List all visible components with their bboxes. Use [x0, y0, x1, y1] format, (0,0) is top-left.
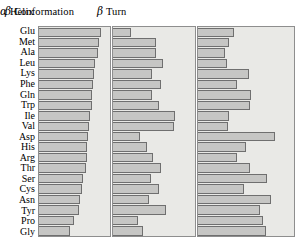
bar-row [39, 194, 110, 204]
bar-row [198, 215, 294, 225]
bar-alpha-helix-arg [38, 153, 87, 162]
bar-alpha-helix-his [38, 142, 87, 151]
bar-beta-conformation-trp [112, 101, 159, 110]
bar-row [113, 215, 195, 225]
bar-series-beta-turn [198, 27, 294, 236]
bar-row [198, 79, 294, 89]
bar-beta-turn-ser [197, 174, 267, 183]
bar-row [198, 37, 294, 47]
bar-row [113, 121, 195, 131]
bar-alpha-helix-cys [38, 184, 82, 193]
bar-beta-turn-lys [197, 69, 249, 78]
bar-beta-conformation-arg [112, 153, 153, 162]
bar-alpha-helix-ser [38, 174, 83, 183]
bar-beta-turn-ala [197, 48, 225, 57]
bar-beta-turn-val [197, 122, 228, 131]
bar-row [113, 79, 195, 89]
bar-beta-turn-leu [197, 59, 227, 68]
bar-row [39, 37, 110, 47]
bar-row [198, 69, 294, 79]
bar-alpha-helix-lys [38, 69, 94, 78]
plot-panel-alpha-helix [38, 26, 111, 237]
bar-beta-conformation-ala [112, 48, 156, 57]
bar-alpha-helix-ile [38, 111, 90, 120]
bar-row [113, 194, 195, 204]
bar-alpha-helix-leu [38, 59, 95, 68]
bar-beta-conformation-glu [112, 28, 131, 37]
bar-row [113, 90, 195, 100]
bar-row [113, 163, 195, 173]
bar-row [113, 48, 195, 58]
bar-row [113, 37, 195, 47]
bar-beta-conformation-gly [112, 226, 143, 235]
bar-beta-conformation-pro [112, 216, 138, 225]
bar-row [39, 163, 110, 173]
bar-beta-conformation-cys [112, 184, 159, 193]
bar-row [113, 205, 195, 215]
bar-row [39, 69, 110, 79]
bar-row [113, 184, 195, 194]
bar-alpha-helix-glu [38, 28, 101, 37]
panel-title-beta-turn: β Turn [0, 5, 299, 17]
bar-beta-conformation-lys [112, 69, 152, 78]
bar-row [198, 111, 294, 121]
bar-row [198, 226, 294, 236]
bar-beta-conformation-his [112, 142, 147, 151]
bar-row [113, 100, 195, 110]
bar-alpha-helix-val [38, 122, 89, 131]
bar-row [198, 27, 294, 37]
bar-beta-conformation-gln [112, 90, 152, 99]
bar-alpha-helix-pro [38, 216, 74, 225]
bar-row [198, 173, 294, 183]
bar-beta-turn-arg [197, 153, 237, 162]
bar-row [39, 184, 110, 194]
bar-row [198, 48, 294, 58]
bar-row [39, 27, 110, 37]
bar-row [113, 111, 195, 121]
bar-row [39, 111, 110, 121]
panel-titles: α Helix β Conformation β Turn [0, 0, 299, 26]
bar-row [39, 173, 110, 183]
category-axis-labels: GluMetAlaLeuLysPheGlnTrpIleValAspHisArgT… [0, 26, 38, 237]
bar-row [198, 90, 294, 100]
bar-row [39, 152, 110, 162]
category-label: Gly [0, 226, 38, 237]
bar-row [39, 132, 110, 142]
bar-alpha-helix-tyr [38, 205, 79, 214]
category-label: Val [0, 121, 38, 132]
bar-alpha-helix-trp [38, 101, 92, 110]
bar-beta-turn-thr [197, 163, 250, 172]
bar-alpha-helix-asp [38, 132, 88, 141]
bar-row [39, 215, 110, 225]
bar-row [39, 100, 110, 110]
bar-alpha-helix-gly [38, 226, 70, 235]
bar-beta-conformation-ile [112, 111, 175, 120]
bar-beta-turn-pro [197, 216, 263, 225]
bar-row [113, 27, 195, 37]
bar-beta-turn-asp [197, 132, 275, 141]
bar-row [198, 205, 294, 215]
bar-row [113, 226, 195, 236]
bar-row [198, 132, 294, 142]
bar-beta-conformation-leu [112, 59, 163, 68]
category-label: His [0, 142, 38, 153]
bar-row [113, 152, 195, 162]
bar-beta-conformation-met [112, 38, 156, 47]
bar-row [198, 58, 294, 68]
bar-row [198, 142, 294, 152]
bar-row [113, 69, 195, 79]
bar-beta-turn-met [197, 38, 229, 47]
bar-beta-turn-his [197, 142, 246, 151]
bar-row [198, 152, 294, 162]
bar-alpha-helix-phe [38, 80, 93, 89]
bar-row [113, 173, 195, 183]
plot-panel-beta-turn [197, 26, 295, 237]
bar-row [39, 226, 110, 236]
bar-alpha-helix-thr [38, 163, 86, 172]
amino-acid-conformation-chart: α Helix β Conformation β Turn GluMetAlaL… [0, 0, 299, 241]
bar-beta-turn-tyr [197, 205, 260, 214]
bar-series-alpha-helix [39, 27, 110, 236]
bar-beta-conformation-tyr [112, 205, 166, 214]
panel-title-beta-turn-text: Turn [103, 6, 126, 17]
bar-row [39, 121, 110, 131]
